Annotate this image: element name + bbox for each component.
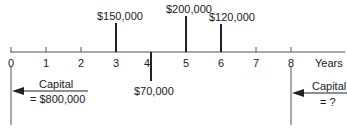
cashflow-label-year-3: $150,000: [97, 10, 143, 22]
end-capital-label: Capital: [312, 80, 346, 92]
axis-ticks: [11, 47, 291, 52]
tick-label-7: 7: [249, 57, 263, 69]
tick-label-5: 5: [179, 57, 193, 69]
tick-label-2: 2: [74, 57, 88, 69]
end-capital-value: = ?: [320, 96, 336, 108]
tick-label-6: 6: [214, 57, 228, 69]
tick-label-1: 1: [39, 57, 53, 69]
tick-label-4: 4: [140, 57, 154, 69]
cashflow-label-year-5: $200,000: [166, 3, 212, 15]
cashflow-label-year-4: $70,000: [134, 85, 174, 97]
cashflow-label-year-6: $120,000: [209, 11, 255, 23]
tick-label-8: 8: [284, 57, 298, 69]
axis-label-years: Years: [315, 57, 343, 69]
tick-label-3: 3: [109, 57, 123, 69]
start-capital-label: Capital: [39, 78, 73, 90]
start-capital-value: = $800,000: [30, 93, 85, 105]
tick-label-0: 0: [4, 57, 18, 69]
